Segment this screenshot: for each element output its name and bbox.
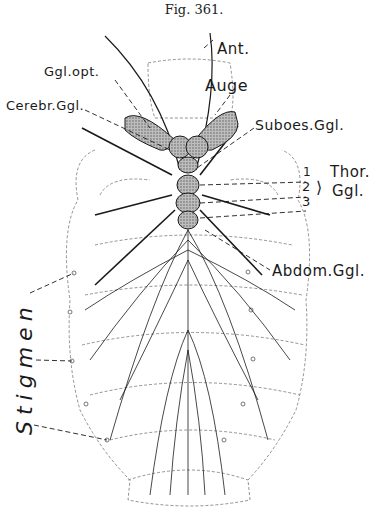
label-thoracic-1: 1: [303, 165, 311, 179]
label-thoracic-3: 3: [302, 194, 311, 209]
abdominal-nerves: [85, 215, 295, 495]
spiracle-markers: [68, 270, 255, 442]
ganglia: [125, 112, 238, 229]
label-eye: Auge: [205, 76, 248, 95]
label-thoracic-ganglia-line2: Ggl.: [332, 182, 364, 200]
thoracic-brace: ⟩: [316, 178, 323, 197]
label-cerebral-ganglion: Cerebr.Ggl.: [6, 98, 84, 113]
figure-canvas: Fig. 361.: [0, 0, 388, 514]
label-abdominal-ganglion: Abdom.Ggl.: [272, 262, 365, 280]
label-suboesophageal-ganglion: Suboes.Ggl.: [255, 117, 344, 133]
label-optic-ganglion: Ggl.opt.: [44, 64, 100, 79]
label-thoracic-2: 2: [302, 179, 311, 194]
label-antenna: Ant.: [217, 40, 249, 58]
label-spiracles: Stigmen: [12, 301, 37, 435]
label-thoracic-ganglia-line1: Thor.: [330, 163, 370, 181]
